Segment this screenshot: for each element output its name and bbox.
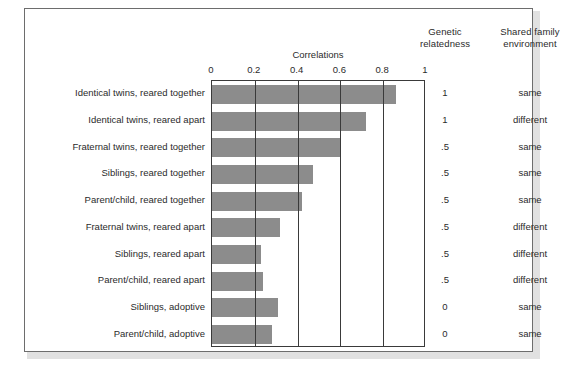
- cell-shared-family-environment: same: [487, 328, 564, 339]
- chart-title: Correlations: [211, 49, 425, 60]
- cell-shared-family-environment: different: [487, 221, 564, 232]
- row-label: Fraternal twins, reared apart: [47, 221, 205, 232]
- cell-shared-family-environment: different: [487, 248, 564, 259]
- bar: [212, 218, 280, 237]
- bar-row: [212, 138, 424, 157]
- bar-row: [212, 298, 424, 317]
- bar-row: [212, 272, 424, 291]
- column-header-shared-line1: Shared family: [487, 26, 564, 38]
- row-label: Siblings, reared together: [47, 167, 205, 178]
- bar-row: [212, 192, 424, 211]
- x-tick-label-1: 0.2: [247, 64, 260, 75]
- bar-row: [212, 112, 424, 131]
- row-label: Parent/child, reared together: [47, 194, 205, 205]
- gridline-0.4: [298, 81, 299, 346]
- row-label: Identical twins, reared together: [47, 87, 205, 98]
- bar-row: [212, 165, 424, 184]
- x-tick-label-5: 1: [422, 64, 427, 75]
- bar-row: [212, 325, 424, 344]
- row-label: Siblings, reared apart: [47, 248, 205, 259]
- cell-shared-family-environment: same: [487, 194, 564, 205]
- bar: [212, 298, 278, 317]
- column-header-shared-line2: environment: [487, 38, 564, 50]
- cell-shared-family-environment: same: [487, 87, 564, 98]
- bar-row: [212, 245, 424, 264]
- bar: [212, 325, 272, 344]
- cell-shared-family-environment: different: [487, 114, 564, 125]
- cell-genetic-relatedness: .5: [402, 194, 488, 205]
- x-tick-label-4: 0.8: [376, 64, 389, 75]
- cell-genetic-relatedness: 1: [402, 87, 488, 98]
- row-label: Parent/child, adoptive: [47, 328, 205, 339]
- row-label: Identical twins, reared apart: [47, 114, 205, 125]
- cell-genetic-relatedness: .5: [402, 167, 488, 178]
- cell-shared-family-environment: different: [487, 274, 564, 285]
- row-label: Fraternal twins, reared together: [47, 141, 205, 152]
- bar: [212, 138, 340, 157]
- bar-series: [212, 81, 424, 346]
- cell-genetic-relatedness: 1: [402, 114, 488, 125]
- cell-genetic-relatedness: .5: [402, 141, 488, 152]
- plot-area: [211, 80, 425, 347]
- bar: [212, 192, 302, 211]
- cell-genetic-relatedness: 0: [402, 328, 488, 339]
- cell-genetic-relatedness: 0: [402, 301, 488, 312]
- bar: [212, 85, 396, 104]
- column-header-genetic-relatedness: Genetic relatedness: [402, 26, 488, 50]
- x-tick-label-3: 0.6: [333, 64, 346, 75]
- gridline-0.8: [383, 81, 384, 346]
- x-tick-label-2: 0.4: [290, 64, 303, 75]
- cell-genetic-relatedness: .5: [402, 221, 488, 232]
- cell-shared-family-environment: same: [487, 141, 564, 152]
- cell-shared-family-environment: same: [487, 167, 564, 178]
- cell-shared-family-environment: same: [487, 301, 564, 312]
- bar-row: [212, 218, 424, 237]
- cell-genetic-relatedness: .5: [402, 274, 488, 285]
- x-tick-label-0: 0: [208, 64, 213, 75]
- bar-row: [212, 85, 424, 104]
- row-label: Parent/child, reared apart: [47, 274, 205, 285]
- column-header-shared-family-environment: Shared family environment: [487, 26, 564, 50]
- cell-genetic-relatedness: .5: [402, 248, 488, 259]
- gridline-0.2: [255, 81, 256, 346]
- figure-frame: Genetic relatedness Shared family enviro…: [24, 8, 533, 352]
- bar: [212, 112, 366, 131]
- x-axis-tick-labels: 00.20.40.60.81: [211, 64, 425, 78]
- column-header-genetic-line1: Genetic: [402, 26, 488, 38]
- row-label: Siblings, adoptive: [47, 301, 205, 312]
- gridline-0.6: [340, 81, 341, 346]
